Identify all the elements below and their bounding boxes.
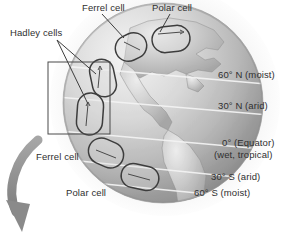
latitude-label-equator-note: (wet, tropical)	[214, 149, 273, 161]
latitude-label-60s: 60° S (moist)	[194, 187, 250, 199]
callout-ferrel-cell-bottom: Ferrel cell	[36, 151, 79, 163]
callout-ferrel-cell-top: Ferrel cell	[82, 2, 125, 14]
latitude-label-30n: 30° N (arid)	[218, 100, 268, 112]
figure-canvas: Ferrel cell Polar cell Hadley cells Ferr…	[0, 0, 301, 235]
callout-hadley-cells: Hadley cells	[10, 27, 62, 39]
latitude-label-60n: 60° N (moist)	[218, 69, 275, 81]
latitude-label-30s: 30° S (arid)	[211, 171, 260, 183]
callout-polar-cell-top: Polar cell	[152, 2, 192, 14]
polar-cell-north-loop	[151, 24, 192, 54]
hadley-cell-south-loop	[76, 92, 105, 136]
callout-polar-cell-bottom: Polar cell	[66, 187, 106, 199]
earth-rotation-arrow	[6, 140, 38, 232]
latitude-label-equator: 0° (Equator)	[222, 137, 275, 149]
